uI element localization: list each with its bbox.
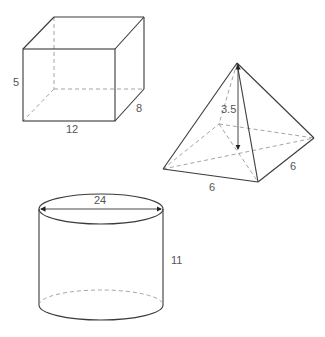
pyramid-height-label: 3.5 bbox=[221, 103, 236, 115]
prism-height-label: 5 bbox=[13, 76, 19, 88]
cylinder-height-label: 11 bbox=[171, 254, 182, 266]
geometry-figures: 5 12 8 3.5 6 6 24 11 bbox=[0, 0, 325, 337]
cylinder: 24 11 bbox=[39, 194, 182, 320]
pyramid-front-side-label: 6 bbox=[209, 181, 215, 193]
cylinder-diameter-label: 24 bbox=[94, 194, 106, 206]
pyramid-right-side-label: 6 bbox=[290, 160, 296, 172]
prism-length-label: 12 bbox=[66, 123, 78, 135]
rectangular-prism: 5 12 8 bbox=[13, 17, 144, 135]
square-pyramid: 3.5 6 6 bbox=[163, 63, 314, 193]
prism-depth-label: 8 bbox=[136, 102, 142, 114]
